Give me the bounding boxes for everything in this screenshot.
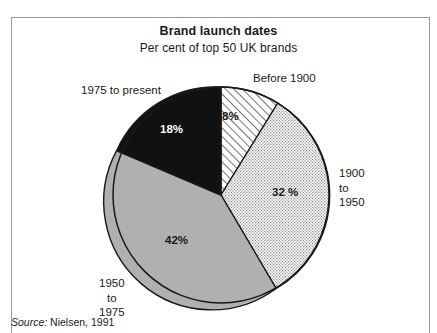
pie-label-1950-1975: 1950 to 1975 [99,276,125,320]
chart-figure: Brand launch dates Per cent of top 50 UK… [0,0,437,333]
pie-label-1900-1950: 1900 to 1950 [339,166,365,210]
pie-chart [0,0,437,333]
pie-value-1900-1950: 32 % [272,186,298,198]
pie-label-1975-present: 1975 to present [81,83,161,98]
source-note: Source: Nielsen, 1991 [11,316,114,328]
source-label: Source: [11,316,47,328]
pie-value-1950-1975: 42% [165,234,188,246]
pie-label-before-1900: Before 1900 [253,71,316,86]
source-text: Nielsen, 1991 [47,316,114,328]
pie-value-before-1900: 8% [222,110,239,122]
pie-value-1975-present: 18% [160,123,183,135]
